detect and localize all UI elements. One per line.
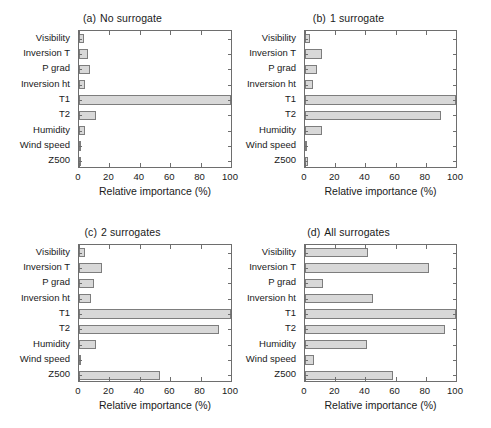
x-tickmark: [365, 163, 366, 167]
bar-row: [305, 279, 456, 289]
y-tick-label: T1: [59, 308, 70, 318]
x-tickmark-top: [170, 31, 171, 35]
y-tickmark: [79, 85, 82, 86]
panel-title-a: (a)No surrogate: [0, 12, 245, 24]
bar-inversion-ht: [305, 294, 373, 304]
y-tickmark: [79, 146, 82, 147]
x-tick-label: 60: [154, 385, 184, 396]
y-tickmark: [79, 299, 82, 300]
y-tickmark-right: [453, 253, 456, 254]
panel-title-tag: (b): [313, 12, 326, 24]
bar-row: [79, 325, 231, 335]
y-tickmark: [79, 115, 82, 116]
y-tick-label: Wind speed: [246, 140, 296, 150]
x-tickmark-top: [335, 31, 336, 35]
y-tickmark-right: [453, 54, 456, 55]
x-axis-label: Relative importance (%): [78, 185, 232, 197]
y-tick-label: Inversion T: [23, 48, 70, 58]
panel-title-c: (c)2 surrogates: [0, 226, 245, 238]
bar-t1: [305, 309, 456, 319]
y-tick-label: Wind speed: [20, 354, 70, 364]
y-tickmark: [305, 85, 308, 86]
y-tickmark-right: [228, 100, 231, 101]
x-tick-label: 20: [319, 171, 349, 182]
y-tickmark-right: [453, 375, 456, 376]
x-tick-label: 40: [349, 385, 379, 396]
panel-title-b: (b)1 surrogate: [226, 12, 471, 24]
y-tickmark: [79, 69, 82, 70]
y-tickmark-right: [453, 146, 456, 147]
panel-title-tag: (d): [307, 226, 320, 238]
y-tick-label: Inversion T: [23, 262, 70, 272]
y-tickmark-right: [453, 115, 456, 116]
panel-title-text: No surrogate: [100, 12, 162, 24]
y-tickmark-right: [228, 345, 231, 346]
y-tickmark-right: [228, 54, 231, 55]
bar-row: [79, 309, 231, 319]
y-tick-label: Inversion ht: [247, 79, 296, 89]
x-tick-label: 100: [440, 171, 470, 182]
y-tick-label: Humidity: [33, 339, 70, 349]
bar-row: [79, 49, 231, 59]
y-tickmark-right: [453, 314, 456, 315]
bar-row: [305, 325, 456, 335]
y-tickmark-right: [453, 329, 456, 330]
x-tickmark-top: [140, 31, 141, 35]
plot-area-b: [304, 30, 457, 168]
y-tickmark: [305, 39, 308, 40]
bar-row: [305, 126, 456, 136]
y-tick-label: Wind speed: [246, 354, 296, 364]
y-tick-label: Inversion ht: [247, 293, 296, 303]
y-tickmark: [305, 283, 308, 284]
bar-row: [79, 371, 231, 381]
panel-title-text: 1 surrogate: [330, 12, 384, 24]
x-tick-label: 40: [124, 171, 154, 182]
bar-row: [79, 111, 231, 121]
y-tickmark-right: [453, 100, 456, 101]
bar-z500: [305, 371, 393, 381]
bar-row: [79, 141, 231, 151]
panel-title-text: 2 surrogates: [101, 226, 161, 238]
y-tick-label: T2: [285, 109, 296, 119]
bar-row: [305, 157, 456, 167]
bar-row: [79, 157, 231, 167]
y-tick-label: Inversion T: [249, 262, 296, 272]
bar-humidity: [305, 340, 367, 350]
x-tickmark: [335, 163, 336, 167]
x-tickmark-top: [109, 245, 110, 249]
y-tick-label: T1: [285, 308, 296, 318]
figure-bar-chart-grid: (a)No surrogateVisibilityInversion TP gr…: [0, 0, 491, 428]
panel-a: (a)No surrogateVisibilityInversion TP gr…: [0, 0, 245, 214]
y-tick-label: Humidity: [259, 125, 296, 135]
panel-c: (c)2 surrogatesVisibilityInversion TP gr…: [0, 214, 245, 428]
y-tickmark: [305, 69, 308, 70]
x-tickmark: [231, 377, 232, 381]
y-tickmark-right: [453, 268, 456, 269]
x-tickmark: [79, 377, 80, 381]
x-tickmark: [396, 377, 397, 381]
y-tick-label: T2: [59, 109, 70, 119]
bars-layer: [305, 31, 456, 167]
x-tickmark-top: [140, 245, 141, 249]
x-tick-label: 20: [93, 171, 123, 182]
y-tick-label: Visibility: [36, 33, 70, 43]
x-tickmark: [456, 377, 457, 381]
x-tickmark: [426, 163, 427, 167]
bar-row: [305, 111, 456, 121]
x-tick-label: 0: [63, 385, 93, 396]
panel-title-d: (d)All surrogates: [226, 226, 471, 238]
bar-t1: [79, 95, 231, 105]
y-tickmark: [79, 375, 82, 376]
bar-z500: [79, 371, 160, 381]
x-tickmark-top: [170, 245, 171, 249]
bar-row: [305, 49, 456, 59]
x-tickmark: [396, 163, 397, 167]
y-tick-label: Inversion ht: [21, 293, 70, 303]
x-tick-label: 20: [319, 385, 349, 396]
bar-inversion-t: [305, 263, 429, 273]
x-tickmark: [201, 377, 202, 381]
x-tickmark-top: [426, 31, 427, 35]
y-tickmark: [305, 375, 308, 376]
bar-row: [305, 95, 456, 105]
y-tickmark-right: [228, 329, 231, 330]
